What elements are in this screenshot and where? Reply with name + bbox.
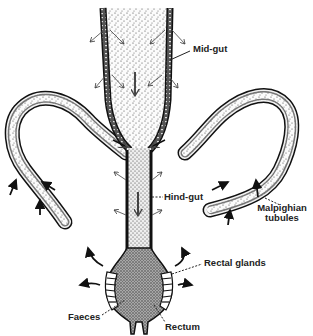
label-faeces: Faeces	[68, 312, 100, 322]
label-mid-gut: Mid-gut	[193, 44, 227, 54]
label-hind-gut: Hind-gut	[164, 192, 203, 202]
rectum	[105, 248, 172, 334]
hind-gut	[127, 148, 151, 250]
label-rectal-glands: Rectal glands	[204, 258, 266, 268]
insect-gut-diagram	[0, 0, 313, 336]
mid-gut	[103, 8, 170, 150]
label-malpighian-line2: tubules	[252, 213, 312, 223]
label-rectum: Rectum	[165, 322, 200, 332]
